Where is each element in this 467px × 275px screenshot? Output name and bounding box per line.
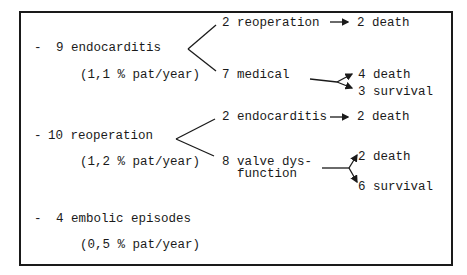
branch-medical: 7 medical bbox=[222, 68, 290, 82]
bullet-endocarditis: - bbox=[34, 41, 42, 55]
event-embolic: 4 embolic episodes bbox=[56, 212, 191, 226]
outcome-valve-survival: 6 survival bbox=[358, 180, 433, 194]
bullet-reoperation: - bbox=[34, 129, 42, 143]
event-reoperation: 10 reoperation bbox=[48, 129, 153, 143]
split-valve bbox=[322, 155, 357, 182]
outcome-endo-death: 2 death bbox=[357, 110, 410, 124]
branch-valve-dysfunction-line2: function bbox=[237, 167, 297, 181]
split-medical bbox=[310, 74, 352, 88]
outcome-medical-death: 4 death bbox=[358, 68, 411, 82]
rate-reoperation: (1,2 % pat/year) bbox=[80, 155, 200, 169]
outcome-medical-survival: 3 survival bbox=[358, 85, 433, 99]
branch-endocarditis: 2 endocarditis bbox=[222, 110, 327, 124]
fork-endocarditis bbox=[188, 25, 216, 71]
bullet-embolic: - bbox=[34, 212, 42, 226]
rate-endocarditis: (1,1 % pat/year) bbox=[80, 68, 200, 82]
branch-reoperation: 2 reoperation bbox=[222, 16, 320, 30]
event-endocarditis: 9 endocarditis bbox=[56, 41, 161, 55]
outcome-reop-death: 2 death bbox=[357, 16, 410, 30]
rate-embolic: (0,5 % pat/year) bbox=[80, 238, 200, 252]
fork-reoperation bbox=[176, 119, 215, 156]
outcome-valve-death: 2 death bbox=[358, 150, 411, 164]
